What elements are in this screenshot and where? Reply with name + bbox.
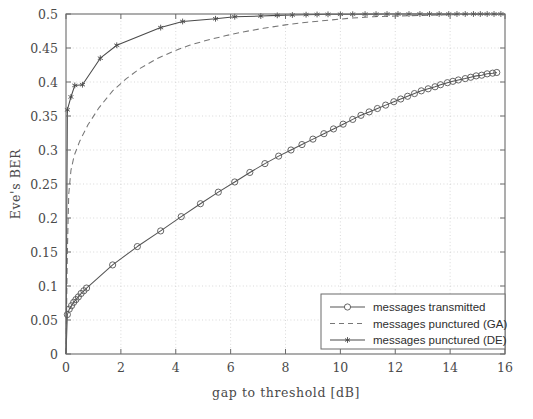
y-tick-label: 0.1 [38,279,58,294]
x-axis-title: gap to threshold [dB] [212,385,360,400]
y-tick-label: 0.25 [30,177,58,192]
y-tick-label: 0.3 [38,143,58,158]
legend-label: messages transmitted [373,301,486,313]
y-tick-label: 0.05 [30,313,58,328]
y-tick-label: 0.45 [30,41,58,56]
legend-label: messages punctured (DE) [373,334,507,346]
y-tick-label: 0.4 [38,75,58,90]
x-tick-label: 2 [117,360,125,375]
chart-legend: messages transmittedmessages punctured (… [321,294,507,349]
chart-canvas: 0246810121416 00.050.10.150.20.250.30.35… [0,0,533,419]
x-tick-label: 4 [172,360,180,375]
y-tick-label: 0.2 [38,211,58,226]
x-tick-label: 10 [332,360,348,375]
figure-container: 0246810121416 00.050.10.150.20.250.30.35… [0,0,533,419]
marker-star [68,94,73,100]
x-tick-label: 0 [62,360,70,375]
x-tick-label: 14 [442,360,458,375]
y-tick-label: 0 [50,347,58,362]
x-tick-label: 6 [227,360,235,375]
x-tick-label: 16 [497,360,513,375]
y-axis-title: Eve's BER [8,149,23,220]
legend-marker-circle [344,304,350,310]
y-tick-label: 0.5 [38,7,58,22]
legend-label: messages punctured (GA) [373,318,507,330]
x-tick-label: 8 [282,360,290,375]
x-tick-label: 12 [387,360,403,375]
y-tick-label: 0.35 [30,109,58,124]
y-tick-label: 0.15 [30,245,58,260]
